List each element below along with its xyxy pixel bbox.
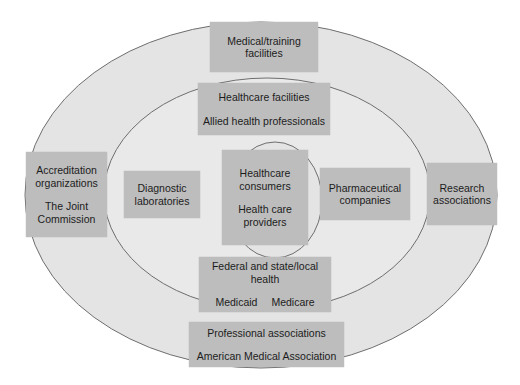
medicaid-label: Medicaid [215, 296, 257, 309]
label-line: consumers [239, 180, 290, 193]
pharmaceutical-companies-box: Pharmaceutical companies [320, 168, 410, 220]
label-line: Commission [38, 213, 96, 226]
label-line: Allied health professionals [203, 115, 325, 128]
federal-state-local-health-box: Federal and state/local health Medicaid … [199, 257, 331, 312]
label-line: organizations [35, 177, 97, 190]
label-line: providers [243, 216, 286, 229]
label-line: Federal and state/local [212, 260, 318, 273]
label-line: American Medical Association [197, 350, 336, 363]
label-line: Healthcare [240, 167, 291, 180]
healthcare-facilities-box: Healthcare facilities Allied health prof… [198, 83, 330, 135]
label-line: companies [340, 194, 391, 207]
label-line: health [251, 273, 280, 286]
label-line: The Joint [45, 200, 88, 213]
label-line: Professional associations [207, 327, 325, 340]
medical-training-facilities-box: Medical/training facilities [210, 22, 318, 72]
label-line: laboratories [135, 195, 190, 208]
research-associations-box: Research associations [427, 163, 497, 225]
label-line: Research [440, 182, 485, 195]
label-line: Accreditation [36, 164, 97, 177]
label-line: Health care [238, 203, 292, 216]
label-line: facilities [245, 47, 282, 60]
program-list: Medicaid Medicare [215, 296, 314, 309]
medicare-label: Medicare [271, 296, 314, 309]
label-line: Medical/training [227, 35, 301, 48]
label-line: Healthcare facilities [218, 91, 309, 104]
diagnostic-laboratories-box: Diagnostic laboratories [124, 171, 200, 218]
healthcare-consumers-providers-box: Healthcare consumers Health care provide… [222, 150, 308, 245]
label-line: Diagnostic [137, 182, 186, 195]
label-line: Pharmaceutical [329, 182, 401, 195]
label-line: associations [433, 194, 491, 207]
professional-associations-box: Professional associations American Medic… [189, 322, 344, 367]
accreditation-organizations-box: Accreditation organizations The Joint Co… [26, 152, 107, 237]
